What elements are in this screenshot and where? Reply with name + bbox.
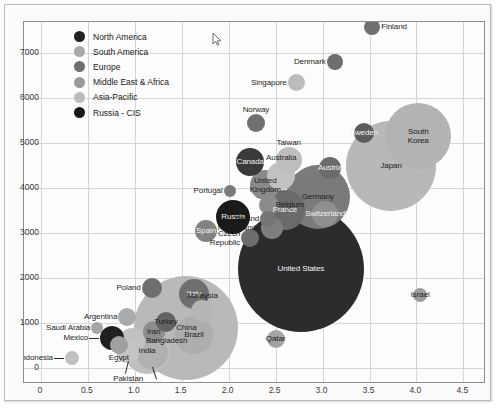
x-axis-tick-label: 0	[25, 385, 55, 395]
legend-label: Asia-Pacific	[93, 92, 137, 102]
bubble-label-argentina: Argentina	[47, 312, 117, 321]
bubble-label-austria: Austria	[295, 163, 365, 172]
bubble-norway[interactable]	[247, 114, 265, 132]
bubble-label-qatar: Qatar	[241, 334, 311, 343]
y-axis-tick-label: 4000	[5, 182, 39, 192]
legend-swatch-icon	[74, 92, 85, 103]
y-axis-tick-label: 2000	[5, 272, 39, 282]
x-axis-tick-label: 1.5	[166, 385, 196, 395]
mouse-pointer-icon	[212, 32, 223, 47]
bubble-label-malaysia: Malaysia	[167, 291, 237, 300]
legend[interactable]: North AmericaSouth AmericaEuropeMiddle E…	[74, 29, 169, 120]
bubble-label-poland: Poland	[71, 283, 141, 292]
legend-label: Russia - CIS	[93, 108, 141, 118]
legend-label: Europe	[93, 62, 120, 72]
bubble-label-taiwan: Taiwan	[254, 138, 324, 147]
legend-item-asia-pacific[interactable]: Asia-Pacific	[74, 90, 169, 105]
bubble-indonesia[interactable]	[65, 351, 79, 365]
legend-swatch-icon	[74, 107, 85, 118]
bubble-label-czech-republic: CzechRepublic	[170, 229, 240, 247]
bubble-label-japan: Japan	[356, 161, 426, 170]
bubble-label-china: China	[151, 323, 221, 332]
y-axis-tick-label: 5000	[5, 137, 39, 147]
legend-swatch-icon	[74, 46, 85, 57]
x-axis-tick-label: 4.0	[400, 385, 430, 395]
bubble-label-israel: Israel	[385, 290, 455, 299]
legend-item-europe[interactable]: Europe	[74, 59, 169, 74]
bubble-label-australia: Australia	[246, 153, 316, 162]
x-axis-tick-label: 4.5	[447, 385, 477, 395]
chart-frame: FinlandDenmarkSingaporeNorwaySwedenSouth…	[4, 4, 491, 401]
bubble-label-south-korea: SouthKorea	[383, 127, 453, 145]
y-axis-tick-label: 0	[5, 362, 39, 372]
legend-swatch-icon	[74, 61, 85, 72]
bubble-label-mexico: Mexico	[23, 333, 88, 342]
legend-item-south-america[interactable]: South America	[74, 44, 169, 59]
y-axis-tick-label: 6000	[5, 92, 39, 102]
legend-item-middle-east-africa[interactable]: Middle East & Africa	[74, 75, 169, 90]
bubble-denmark[interactable]	[327, 54, 343, 70]
x-axis-tick-label: 2.0	[213, 385, 243, 395]
bubble-label-united-states: United States	[266, 264, 336, 273]
y-axis-tick-label: 1000	[5, 317, 39, 327]
label-leader-line	[89, 338, 99, 339]
x-axis-tick-label: 2.5	[260, 385, 290, 395]
bubble-label-ireland: Ireland	[189, 214, 259, 223]
y-axis-tick-label: 3000	[5, 227, 39, 237]
x-axis-tick-label: 3.5	[354, 385, 384, 395]
gridline-y-0	[24, 368, 484, 369]
bubble-label-singapore: Singapore	[217, 78, 287, 87]
legend-label: South America	[93, 47, 148, 57]
bubble-singapore[interactable]	[288, 74, 305, 91]
bubble-finland[interactable]	[364, 21, 380, 35]
legend-swatch-icon	[74, 77, 85, 88]
x-axis-tick-label: 1.0	[119, 385, 149, 395]
x-axis-tick-label: 0.5	[72, 385, 102, 395]
legend-label: North America	[93, 32, 147, 42]
bubble-label-bangladesh: Bangladesh	[146, 336, 216, 345]
legend-item-north-america[interactable]: North America	[74, 29, 169, 44]
bubble-label-finland: Finland	[381, 22, 451, 31]
bubble-label-portugal: Portugal	[153, 186, 223, 195]
legend-item-russia-cis[interactable]: Russia - CIS	[74, 105, 169, 120]
legend-label: Middle East & Africa	[93, 77, 169, 87]
bubble-label-south-africa: South Africa	[117, 380, 187, 383]
bubble-label-india: India	[112, 346, 182, 355]
gridline-x-9	[463, 22, 464, 382]
plot-area[interactable]: FinlandDenmarkSingaporeNorwaySwedenSouth…	[23, 21, 485, 383]
y-axis-tick-label: 7000	[5, 47, 39, 57]
legend-swatch-icon	[74, 31, 85, 42]
bubble-label-denmark: Denmark	[256, 57, 326, 66]
x-axis-tick-label: 3.0	[307, 385, 337, 395]
label-leader-line	[54, 358, 64, 359]
bubble-label-norway: Norway	[221, 105, 291, 114]
